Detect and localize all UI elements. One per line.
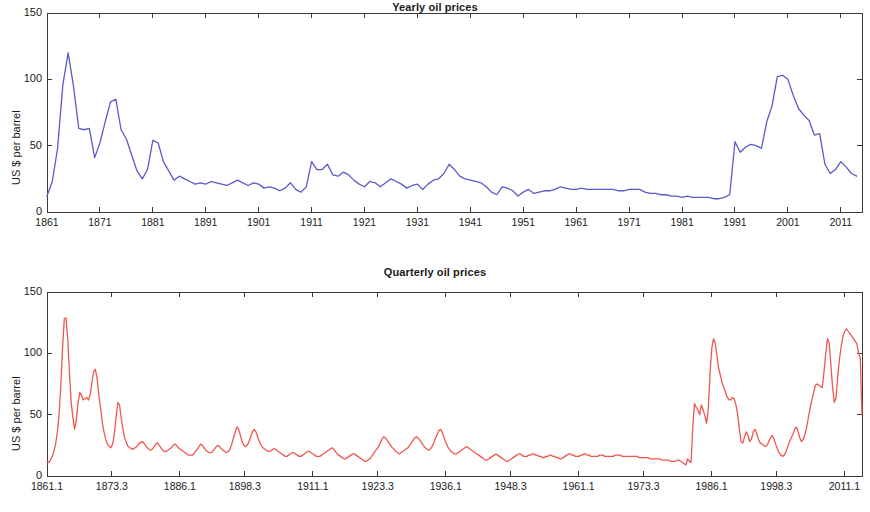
x-tick-label: 1911.1 [297,480,328,492]
x-tick-label: 1881 [141,216,165,228]
x-tick-label: 1923.3 [362,480,394,492]
x-tick-label: 1931 [406,216,430,228]
yearly-oil-prices-panel: Yearly oil prices US $ per barrel 050100… [0,0,870,256]
y-tick-label: 50 [30,408,42,420]
quarterly-oil-prices-panel: Quarterly oil prices US $ per barrel 050… [0,256,870,512]
x-tick-label: 1986.1 [695,480,727,492]
x-tick-label: 1951 [512,216,536,228]
y-tick-label: 100 [24,72,42,84]
oil-prices-figure: Yearly oil prices US $ per barrel 050100… [0,0,870,512]
x-tick-label: 1991 [723,216,747,228]
x-tick-label: 1861 [35,216,59,228]
x-tick-label: 1948.3 [495,480,527,492]
x-tick-label: 1971 [617,216,641,228]
y-tick-label: 100 [24,346,42,358]
data-series-line [47,53,857,199]
data-series-line [47,318,862,465]
y-tick-label: 50 [30,139,42,151]
x-tick-label: 1961 [565,216,589,228]
x-tick-label: 1901 [247,216,271,228]
x-tick-label: 1873.3 [96,480,128,492]
x-tick-label: 1911 [300,216,323,228]
x-tick-label: 1941 [459,216,483,228]
x-tick-label: 1861.1 [31,480,63,492]
x-tick-label: 2011 [830,216,853,228]
x-tick-label: 1998.3 [760,480,792,492]
x-tick-label: 1891 [194,216,218,228]
x-tick-label: 1871 [88,216,112,228]
y-tick-label: 150 [24,285,42,297]
y-tick-label: 150 [24,6,42,18]
x-tick-label: 1898.3 [229,480,261,492]
yearly-plot-area: 0501001501861187118811891190119111921193… [0,0,870,256]
x-tick-label: 1961.1 [563,480,595,492]
x-tick-label: 1973.3 [627,480,659,492]
x-tick-label: 2001 [776,216,800,228]
quarterly-plot-area: 0501001501861.11873.31886.11898.31911.11… [0,256,870,512]
x-tick-label: 1921 [353,216,377,228]
x-tick-label: 2011.1 [829,480,860,492]
x-tick-label: 1886.1 [164,480,196,492]
x-tick-label: 1936.1 [430,480,462,492]
x-tick-label: 1981 [670,216,694,228]
